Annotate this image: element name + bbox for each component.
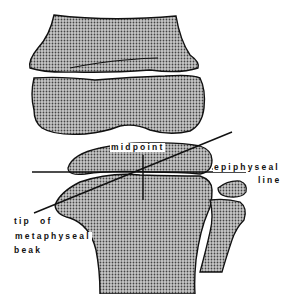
midpoint-label: midpoint (110, 143, 165, 152)
epiphyseal-label-line2: line (258, 176, 281, 185)
femoral-epiphysis-shape (32, 75, 205, 134)
epiphyseal-label-line1: epiphyseal (213, 163, 281, 172)
femur-shape (30, 15, 199, 72)
tip-label-line1: tip of (14, 217, 53, 226)
tip-label-line3: beak (14, 246, 42, 255)
fibula-epiphysis-shape (218, 181, 246, 197)
tip-label-line2: metaphyseal (14, 232, 92, 241)
